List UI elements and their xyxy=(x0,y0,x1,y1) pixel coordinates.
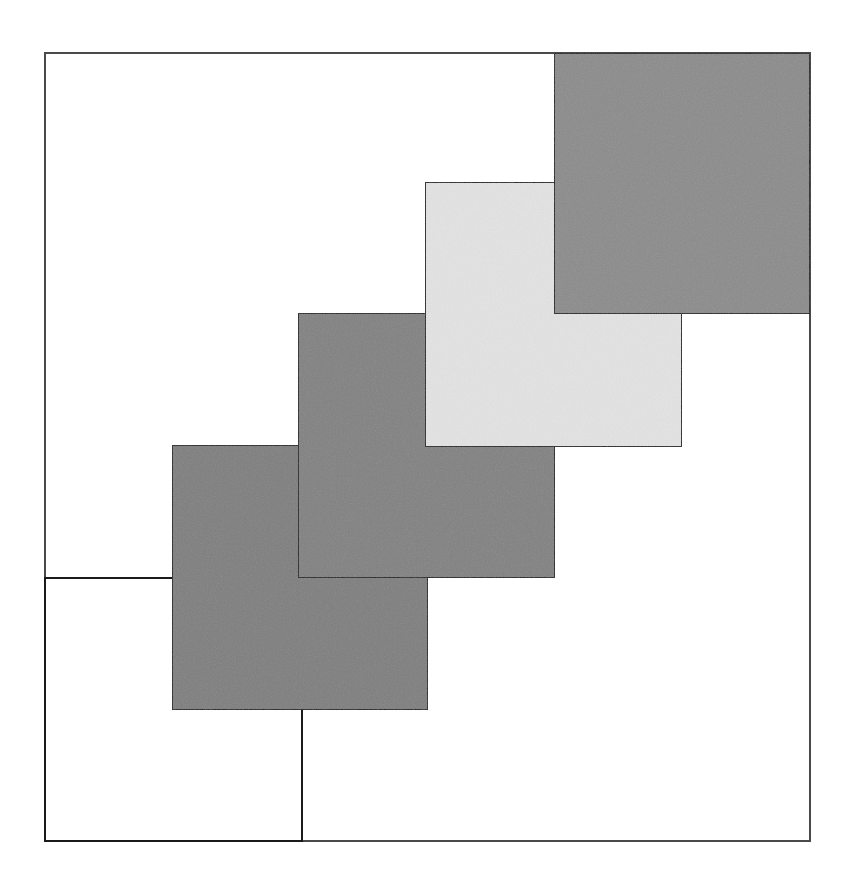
square-5-shape xyxy=(554,53,810,314)
figure-canvas xyxy=(0,0,850,884)
square-5 xyxy=(554,53,810,314)
cascading-squares-figure xyxy=(0,0,850,884)
